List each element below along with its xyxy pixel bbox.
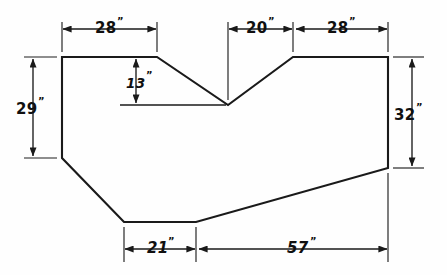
polygon-outline — [62, 57, 388, 222]
dim-label-top-right: 28 — [327, 19, 349, 37]
dim-mark-top-notch: ” — [268, 16, 275, 27]
dim-mark-top-right: ” — [349, 16, 356, 27]
dim-label-bottom-right: 57 — [287, 239, 309, 257]
dim-label-right-height: 32 — [394, 106, 416, 124]
notch-depth-dimension-group: 13 ” — [120, 59, 226, 105]
drawing-canvas: 28 ” 20 ” 28 ” 13 ” 29 ” — [0, 0, 447, 275]
dim-mark-notch-depth: ” — [146, 70, 153, 81]
dim-mark-top-left: ” — [117, 16, 124, 27]
dim-mark-bottom-left: ” — [168, 236, 175, 247]
dim-mark-right-height: ” — [416, 102, 423, 113]
dim-mark-bottom-right: ” — [310, 236, 317, 247]
bottom-dimensions-group: 21 ” 57 ” — [124, 173, 388, 262]
left-dimension-group: 29 ” — [16, 57, 57, 158]
technical-drawing: 28 ” 20 ” 28 ” 13 ” 29 ” — [0, 0, 447, 275]
right-dimension-group: 32 ” — [393, 57, 424, 168]
dim-label-left-height: 29 — [16, 100, 38, 118]
dim-label-top-left: 28 — [95, 19, 117, 37]
dim-mark-left-height: ” — [38, 96, 45, 107]
dim-label-notch-depth: 13 — [126, 75, 146, 91]
shape-outline-group — [62, 57, 388, 222]
dim-label-bottom-left: 21 — [147, 239, 169, 257]
dim-label-top-notch: 20 — [246, 19, 268, 37]
